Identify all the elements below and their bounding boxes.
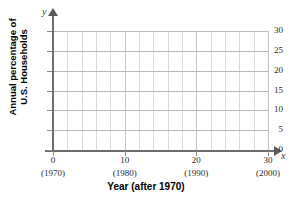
y-tick-label: 20 — [248, 65, 292, 75]
y-tick-mark — [47, 91, 52, 92]
x-tick-label: 20 — [176, 155, 216, 165]
x-tick-label: 0 — [33, 155, 73, 165]
y-axis-arrow-icon — [48, 8, 58, 16]
y-tick-label: 0 — [248, 144, 292, 154]
y-tick-label: 30 — [248, 25, 292, 35]
plot-area — [53, 31, 268, 150]
y-axis-title: Annual percentage of U.S. Households — [7, 0, 29, 137]
y-tick-label: 10 — [248, 104, 292, 114]
y-tick-mark — [47, 31, 52, 32]
y-axis-title-line1: Annual percentage of — [7, 0, 18, 137]
x-tick-label: 10 — [105, 155, 145, 165]
gridline-horizontal — [53, 31, 268, 32]
y-axis-title-line2: U.S. Households — [18, 0, 29, 137]
gridline-horizontal — [53, 51, 268, 52]
y-axis-line — [52, 14, 54, 151]
x-tick-year-label: (1970) — [25, 168, 81, 178]
gridline-horizontal — [53, 110, 268, 111]
y-tick-mark — [47, 71, 52, 72]
y-tick-mark — [47, 51, 52, 52]
x-tick-year-label: (1990) — [168, 168, 224, 178]
y-tick-mark — [47, 110, 52, 111]
gridline-horizontal — [53, 91, 268, 92]
chart-container: y x 051015202530 0(1970)10(1980)20(1990)… — [0, 0, 292, 197]
y-tick-label: 25 — [248, 45, 292, 55]
gridline-horizontal — [53, 71, 268, 72]
y-tick-mark — [47, 150, 52, 151]
y-axis-letter: y — [42, 6, 46, 17]
y-tick-label: 15 — [248, 85, 292, 95]
x-tick-label: 30 — [248, 155, 288, 165]
x-axis-line — [45, 150, 276, 152]
x-tick-year-label: (1980) — [97, 168, 153, 178]
y-tick-mark — [47, 130, 52, 131]
y-tick-label: 5 — [248, 124, 292, 134]
x-axis-title: Year (after 1970) — [0, 181, 292, 192]
gridline-horizontal — [53, 130, 268, 131]
x-tick-year-label: (2000) — [240, 168, 292, 178]
